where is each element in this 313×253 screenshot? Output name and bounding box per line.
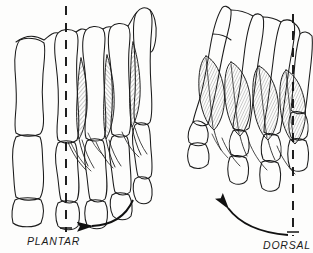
foot-interossei-figure: [0, 0, 313, 253]
panel-label-dorsal: DORSAL: [263, 239, 311, 251]
panel-label-plantar: PLANTAR: [27, 235, 80, 247]
